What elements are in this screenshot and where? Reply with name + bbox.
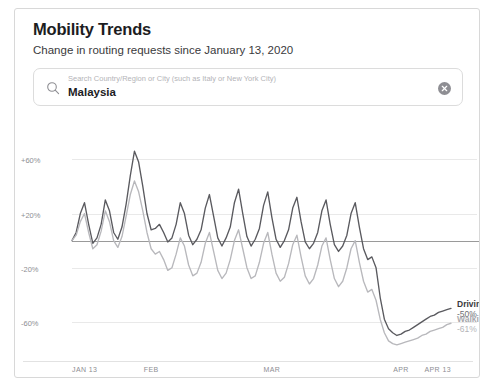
y-tick-label: -20% <box>21 265 39 274</box>
clear-search-button[interactable] <box>438 82 451 95</box>
page-title: Mobility Trends <box>33 19 463 39</box>
x-axis-group: JAN 13FEBMARAPRAPR 13 <box>23 362 473 373</box>
search-input[interactable]: Malaysia <box>68 85 422 100</box>
series-line-driving <box>72 151 451 335</box>
legend-series-name: Driving <box>457 299 480 309</box>
legend-series-value: -61% <box>457 324 477 334</box>
search-icon <box>46 81 60 95</box>
mobility-chart-svg: +60%+20%-20%-60% Baseline Driving-50%Wal… <box>15 113 480 378</box>
y-tick-label: +20% <box>21 211 41 220</box>
mobility-trends-card: Mobility Trends Change in routing reques… <box>14 8 480 378</box>
y-tick-label: +60% <box>21 156 41 165</box>
mobility-trends-screen: Mobility Trends Change in routing reques… <box>0 0 494 391</box>
location-search-box[interactable]: Search Country/Region or City (such as I… <box>33 68 463 106</box>
search-placeholder-label: Search Country/Region or City (such as I… <box>68 73 422 84</box>
mobility-chart: +60%+20%-20%-60% Baseline Driving-50%Wal… <box>15 113 480 378</box>
series-group <box>72 151 451 345</box>
x-tick-label: APR <box>393 366 409 373</box>
series-line-walking <box>72 181 451 345</box>
x-tick-label: APR 13 <box>424 366 451 373</box>
x-tick-label: FEB <box>144 366 159 373</box>
page-subtitle: Change in routing requests since January… <box>33 42 463 58</box>
y-tick-labels: +60%+20%-20%-60% <box>21 156 41 328</box>
card-header: Mobility Trends Change in routing reques… <box>33 19 463 58</box>
y-tick-label: -60% <box>21 319 39 328</box>
legend-series-name: Walking <box>457 314 480 324</box>
legend-group: Driving-50%Walking-61% <box>457 299 480 334</box>
x-tick-label: JAN 13 <box>72 366 97 373</box>
search-text-wrap: Search Country/Region or City (such as I… <box>68 73 422 100</box>
x-tick-label: MAR <box>264 366 281 373</box>
